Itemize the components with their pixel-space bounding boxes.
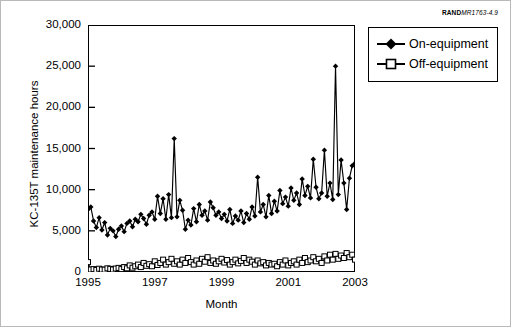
data-point-marker bbox=[244, 211, 249, 216]
data-point-marker bbox=[155, 194, 160, 199]
data-point-marker bbox=[194, 219, 199, 224]
data-point-marker bbox=[283, 194, 288, 199]
series-on-equipment bbox=[85, 55, 399, 239]
data-point-marker bbox=[149, 264, 154, 269]
data-point-marker bbox=[377, 170, 382, 175]
data-point-marker bbox=[238, 208, 243, 213]
data-point-marker bbox=[369, 258, 374, 263]
data-point-marker bbox=[294, 190, 299, 195]
y-tick-label: 0 bbox=[19, 266, 81, 278]
data-point-marker bbox=[163, 217, 168, 222]
data-point-marker bbox=[269, 211, 274, 216]
data-point-marker bbox=[177, 262, 182, 267]
data-point-marker bbox=[230, 221, 235, 226]
data-point-marker bbox=[86, 260, 91, 265]
data-point-marker bbox=[358, 256, 363, 261]
data-point-marker bbox=[394, 261, 399, 266]
data-point-marker bbox=[308, 195, 313, 200]
data-point-marker bbox=[263, 214, 268, 219]
data-point-marker bbox=[261, 202, 266, 207]
data-point-marker bbox=[272, 198, 277, 203]
data-point-marker bbox=[288, 185, 293, 190]
data-point-marker bbox=[322, 147, 327, 152]
data-point-marker bbox=[313, 184, 318, 189]
legend-item-on-equipment: On-equipment bbox=[376, 34, 490, 54]
data-point-marker bbox=[252, 213, 257, 218]
data-point-marker bbox=[391, 260, 396, 265]
data-point-marker bbox=[224, 218, 229, 223]
data-point-marker bbox=[247, 217, 252, 222]
data-point-marker bbox=[185, 217, 190, 222]
data-point-marker bbox=[361, 253, 366, 258]
data-point-marker bbox=[210, 205, 215, 210]
data-point-marker bbox=[280, 201, 285, 206]
data-point-marker bbox=[294, 262, 299, 267]
data-point-marker bbox=[380, 149, 385, 154]
data-point-marker bbox=[174, 214, 179, 219]
data-point-marker bbox=[227, 207, 232, 212]
data-point-marker bbox=[380, 257, 385, 262]
data-point-marker bbox=[197, 202, 202, 207]
data-point-marker bbox=[266, 193, 271, 198]
x-tick-label: 2003 bbox=[332, 277, 378, 289]
data-point-marker bbox=[311, 157, 316, 162]
data-point-marker bbox=[305, 184, 310, 189]
data-point-marker bbox=[121, 229, 126, 234]
data-point-marker bbox=[291, 198, 296, 203]
data-point-marker bbox=[205, 217, 210, 222]
chart-legend: On-equipment Off-equipment bbox=[368, 27, 498, 82]
data-point-marker bbox=[188, 222, 193, 227]
data-point-marker bbox=[161, 257, 166, 262]
data-point-marker bbox=[333, 251, 338, 256]
data-point-marker bbox=[378, 255, 383, 260]
data-point-marker bbox=[96, 215, 101, 220]
data-point-marker bbox=[241, 256, 246, 261]
data-point-marker bbox=[366, 252, 371, 257]
data-point-marker bbox=[319, 260, 324, 265]
data-point-marker bbox=[297, 202, 302, 207]
data-point-marker bbox=[350, 252, 355, 257]
data-point-marker bbox=[172, 136, 177, 141]
figure-container: RANDMR1763-4.9 05,00010,00015,00020,0002… bbox=[0, 0, 512, 328]
data-point-marker bbox=[388, 153, 393, 158]
data-point-marker bbox=[277, 188, 282, 193]
data-point-marker bbox=[324, 194, 329, 199]
data-point-marker bbox=[369, 166, 374, 171]
data-point-marker bbox=[336, 192, 341, 197]
data-point-marker bbox=[169, 256, 174, 261]
data-point-marker bbox=[105, 232, 110, 237]
data-point-marker bbox=[316, 196, 321, 201]
data-point-marker bbox=[389, 256, 394, 261]
data-point-marker bbox=[386, 143, 391, 148]
data-point-marker bbox=[169, 215, 174, 220]
data-point-marker bbox=[375, 256, 380, 261]
data-point-marker bbox=[205, 255, 210, 260]
data-point-marker bbox=[160, 196, 165, 201]
data-point-marker bbox=[299, 176, 304, 181]
legend-label-on-equipment: On-equipment bbox=[409, 37, 488, 51]
data-point-marker bbox=[283, 258, 288, 263]
data-point-marker bbox=[249, 204, 254, 209]
open-square-icon bbox=[376, 56, 406, 72]
legend-item-off-equipment: Off-equipment bbox=[376, 54, 490, 74]
data-point-marker bbox=[241, 220, 246, 225]
data-point-marker bbox=[286, 203, 291, 208]
data-point-marker bbox=[94, 225, 99, 230]
data-point-marker bbox=[347, 175, 352, 180]
data-point-marker bbox=[341, 256, 346, 261]
data-point-marker bbox=[177, 198, 182, 203]
data-point-marker bbox=[191, 206, 196, 211]
x-axis-title: Month bbox=[88, 298, 355, 310]
data-point-marker bbox=[300, 260, 305, 265]
x-tick-label: 1997 bbox=[132, 277, 178, 289]
data-point-marker bbox=[255, 175, 260, 180]
data-point-marker bbox=[338, 157, 343, 162]
data-point-marker bbox=[208, 199, 213, 204]
data-point-marker bbox=[330, 197, 335, 202]
data-point-marker bbox=[130, 224, 135, 229]
data-point-marker bbox=[180, 208, 185, 213]
data-point-marker bbox=[383, 256, 388, 261]
data-point-marker bbox=[375, 159, 380, 164]
data-point-marker bbox=[325, 258, 330, 263]
data-point-marker bbox=[183, 260, 188, 265]
